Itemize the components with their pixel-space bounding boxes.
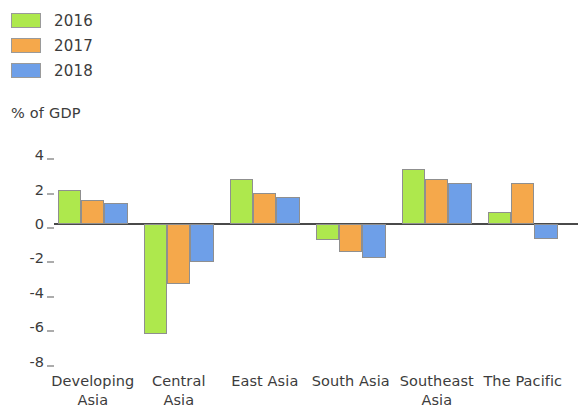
bar xyxy=(402,169,425,224)
y-axis-tick-label: -8 xyxy=(10,354,44,369)
bar xyxy=(448,183,471,224)
bar-chart-plot-area: 420-2-4-6-8DevelopingAsiaCentralAsiaEast… xyxy=(0,0,581,417)
bar xyxy=(488,212,511,224)
y-axis-tick-label: -4 xyxy=(10,286,44,301)
y-axis-tick-mark xyxy=(47,262,54,263)
bar xyxy=(253,193,276,224)
y-axis-tick-label: 0 xyxy=(10,217,44,232)
y-axis-tick-mark xyxy=(47,365,54,366)
bar xyxy=(276,197,299,224)
bar xyxy=(339,224,362,252)
y-axis-tick-label: 4 xyxy=(10,148,44,163)
bar xyxy=(81,200,104,224)
x-axis-category-label: The Pacific xyxy=(468,372,578,391)
y-axis-tick-mark xyxy=(47,228,54,229)
bar xyxy=(104,203,127,224)
bar xyxy=(316,224,339,240)
y-axis-tick-label: 2 xyxy=(10,182,44,197)
bar xyxy=(362,224,385,258)
bar xyxy=(190,224,213,262)
x-axis-category-label-line: Asia xyxy=(124,391,234,410)
x-axis-category-label-line: The Pacific xyxy=(468,372,578,391)
y-axis-tick-mark xyxy=(47,296,54,297)
x-axis-category-label-line: Asia xyxy=(382,391,492,410)
bar xyxy=(167,224,190,284)
bar xyxy=(534,224,557,239)
bar xyxy=(511,183,534,224)
y-axis-tick-mark xyxy=(47,331,54,332)
bar xyxy=(144,224,167,334)
y-axis-tick-mark xyxy=(47,159,54,160)
bar xyxy=(230,179,253,224)
bar xyxy=(425,179,448,224)
y-axis-tick-label: -6 xyxy=(10,320,44,335)
y-axis-tick-label: -2 xyxy=(10,251,44,266)
bar xyxy=(58,190,81,224)
y-axis-tick-mark xyxy=(47,193,54,194)
